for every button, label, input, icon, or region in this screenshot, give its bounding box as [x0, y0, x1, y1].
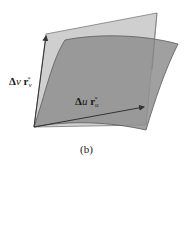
u-vector-label: Δu ru* — [75, 95, 98, 107]
v-vector-label: Δv rv* — [9, 75, 31, 87]
figure-caption: (b) — [80, 143, 93, 155]
